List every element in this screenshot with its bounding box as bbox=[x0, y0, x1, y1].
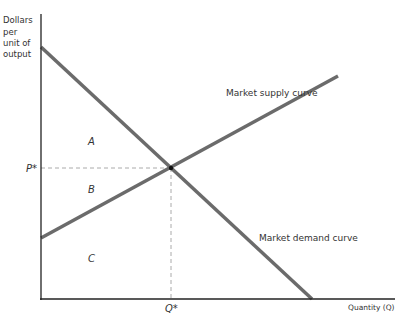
region-b-label: B bbox=[88, 184, 95, 195]
market-demand-curve bbox=[41, 47, 312, 299]
region-a-label: A bbox=[87, 136, 95, 147]
y-axis-label-line-1: Dollars bbox=[3, 15, 33, 25]
y-axis-label-line-2: per bbox=[3, 27, 18, 37]
y-axis-label-line-4: output bbox=[3, 49, 32, 59]
x-axis-label: Quantity (Q) bbox=[348, 303, 395, 312]
equilibrium-point bbox=[169, 166, 173, 170]
q-star-label: Q* bbox=[165, 303, 178, 314]
y-axis-label-line-3: unit of bbox=[3, 38, 31, 48]
supply-demand-diagram: Dollars per unit of output P* Q* Quantit… bbox=[0, 0, 408, 326]
market-supply-curve bbox=[41, 76, 338, 238]
supply-curve-label: Market supply curve bbox=[226, 88, 318, 98]
demand-curve-label: Market demand curve bbox=[259, 233, 358, 243]
p-star-label: P* bbox=[26, 163, 37, 174]
region-c-label: C bbox=[88, 253, 95, 264]
